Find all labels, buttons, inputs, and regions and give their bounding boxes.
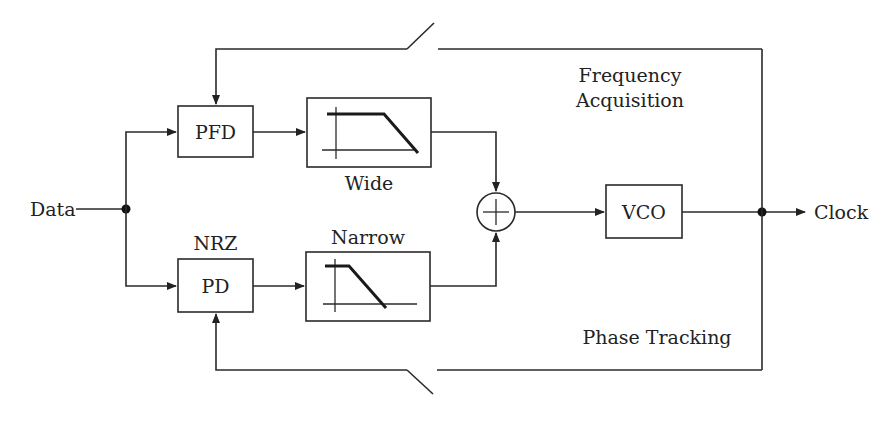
clock-output-label: Clock — [814, 201, 869, 223]
data-input-label: Data — [30, 198, 76, 220]
data-to-pd-wire — [126, 209, 176, 286]
freq-acq-label-line2: Acquisition — [575, 89, 684, 111]
pfd-block: PFD — [178, 106, 253, 157]
wide-filter-block — [307, 98, 431, 167]
narrow-label: Narrow — [331, 226, 406, 248]
narrow-to-summer-wire — [430, 233, 496, 286]
freq-loop-wire-left — [216, 49, 407, 104]
cdr-block-diagram: Data PFD Wide NRZ PD Narrow — [0, 0, 884, 422]
freq-loop-switch-icon — [407, 23, 434, 49]
nrz-label: NRZ — [193, 232, 237, 254]
wide-label: Wide — [345, 172, 394, 194]
pfd-label: PFD — [195, 121, 236, 143]
phase-tracking-label: Phase Tracking — [582, 326, 731, 348]
wide-to-summer-wire — [431, 132, 496, 191]
phase-loop-switch-icon — [407, 370, 433, 394]
pd-block: PD — [178, 259, 253, 312]
phase-loop-wire-left — [216, 314, 407, 370]
vco-label: VCO — [621, 201, 666, 223]
vco-block: VCO — [606, 185, 682, 238]
freq-acq-label-line1: Frequency — [579, 64, 682, 86]
pd-label: PD — [201, 275, 229, 297]
narrow-filter-block — [306, 252, 430, 321]
summer-block — [477, 193, 515, 231]
data-to-pfd-wire — [126, 132, 176, 209]
